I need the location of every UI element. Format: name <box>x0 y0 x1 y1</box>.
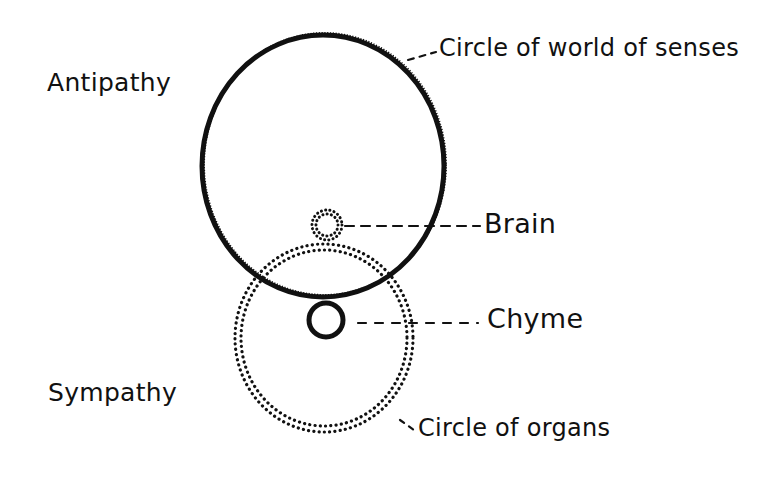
antipathy-label: Antipathy <box>47 70 171 95</box>
senses-leader-line <box>408 52 436 60</box>
senses-callout-label: Circle of world of senses <box>439 36 739 60</box>
brain-callout-label: Brain <box>484 210 556 237</box>
brain-circle <box>312 210 342 240</box>
sympathy-label: Sympathy <box>48 380 177 405</box>
organs-callout-label: Circle of organs <box>418 416 610 440</box>
chyme-circle <box>309 303 343 337</box>
chyme-callout-label: Chyme <box>487 305 583 332</box>
organs-leader-line <box>400 420 414 430</box>
leader-lines <box>345 52 480 430</box>
senses-circle <box>202 34 446 298</box>
